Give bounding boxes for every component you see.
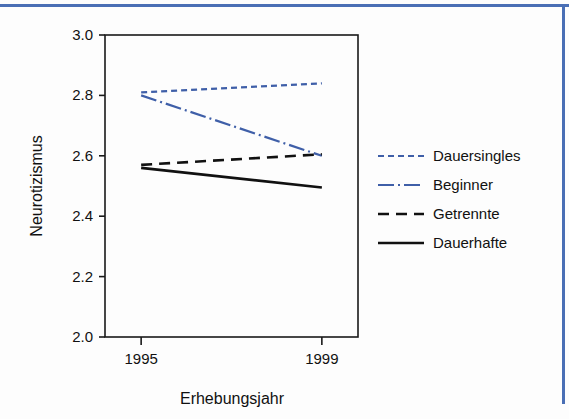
legend-label-getrennte: Getrennte xyxy=(433,205,500,222)
x-axis-title: Erhebungsjahr xyxy=(180,390,285,407)
y-tick-label: 2.4 xyxy=(72,207,93,224)
chart-svg: 2.02.22.42.62.83.0 19951999 Neurotizismu… xyxy=(0,0,569,419)
y-tick-label: 2.0 xyxy=(72,328,93,345)
x-tick-label: 1995 xyxy=(124,350,157,367)
series-line-dauerhafte xyxy=(141,168,322,188)
y-axis-title: Neurotizismus xyxy=(28,135,45,236)
series-line-dauersingles xyxy=(141,83,322,92)
series-line-beginner xyxy=(141,95,322,155)
y-tick-label: 2.6 xyxy=(72,147,93,164)
y-axis: 2.02.22.42.62.83.0 xyxy=(72,26,105,345)
legend-label-dauersingles: Dauersingles xyxy=(433,147,521,164)
line-chart: 2.02.22.42.62.83.0 19951999 Neurotizismu… xyxy=(0,0,569,419)
legend-label-dauerhafte: Dauerhafte xyxy=(433,234,507,251)
y-tick-label: 2.8 xyxy=(72,86,93,103)
series-line-getrennte xyxy=(141,154,322,165)
series-lines xyxy=(141,83,322,187)
y-tick-label: 2.2 xyxy=(72,268,93,285)
plot-frame xyxy=(105,35,358,337)
legend: DauersinglesBeginnerGetrennteDauerhafte xyxy=(378,147,521,251)
x-axis: 19951999 xyxy=(124,337,338,367)
x-tick-label: 1999 xyxy=(305,350,338,367)
y-tick-label: 3.0 xyxy=(72,26,93,43)
legend-label-beginner: Beginner xyxy=(433,176,493,193)
figure-page: 2.02.22.42.62.83.0 19951999 Neurotizismu… xyxy=(0,0,569,419)
